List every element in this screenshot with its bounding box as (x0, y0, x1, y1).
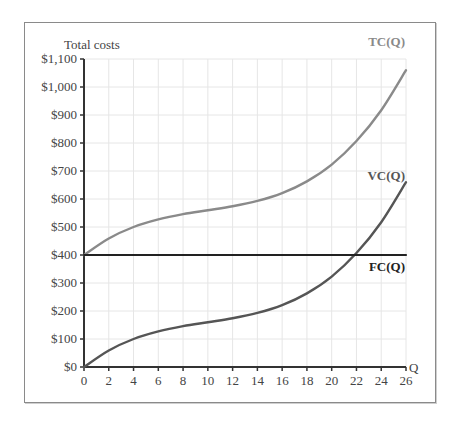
x-tick-label: 24 (375, 373, 389, 388)
x-tick-label: 22 (350, 373, 363, 388)
x-tick-label: 4 (130, 373, 137, 388)
y-tick-label: $0 (64, 359, 77, 374)
fc-label: FC(Q) (369, 259, 405, 274)
y-tick-label: $800 (51, 135, 77, 150)
y-tick-label: $400 (51, 247, 77, 262)
y-tick-label: $300 (51, 275, 77, 290)
x-tick-label: 10 (201, 373, 214, 388)
x-tick-label: 26 (400, 373, 414, 388)
tc-label: TC(Q) (368, 34, 405, 49)
x-tick-label: 18 (300, 373, 313, 388)
y-tick-label: $200 (51, 303, 77, 318)
y-tick-label: $900 (51, 107, 77, 122)
axes (80, 59, 406, 371)
cost-curves-chart: $0$100$200$300$400$500$600$700$800$900$1… (0, 0, 457, 425)
x-tick-label: 20 (325, 373, 338, 388)
tick-labels: $0$100$200$300$400$500$600$700$800$900$1… (41, 51, 413, 388)
y-tick-label: $1,100 (41, 51, 77, 66)
x-tick-label: 14 (251, 373, 265, 388)
y-tick-label: $1,000 (41, 79, 77, 94)
x-tick-label: 16 (276, 373, 290, 388)
vc-label: VC(Q) (367, 168, 405, 183)
x-axis-title: Q (409, 360, 419, 375)
gridlines (84, 59, 406, 367)
x-tick-label: 12 (226, 373, 239, 388)
x-tick-label: 8 (180, 373, 187, 388)
y-tick-label: $600 (51, 191, 77, 206)
x-tick-label: 0 (81, 373, 88, 388)
y-axis-title: Total costs (64, 37, 120, 52)
y-tick-label: $700 (51, 163, 77, 178)
y-tick-label: $500 (51, 219, 77, 234)
y-tick-label: $100 (51, 331, 77, 346)
x-tick-label: 2 (106, 373, 113, 388)
x-tick-label: 6 (155, 373, 162, 388)
